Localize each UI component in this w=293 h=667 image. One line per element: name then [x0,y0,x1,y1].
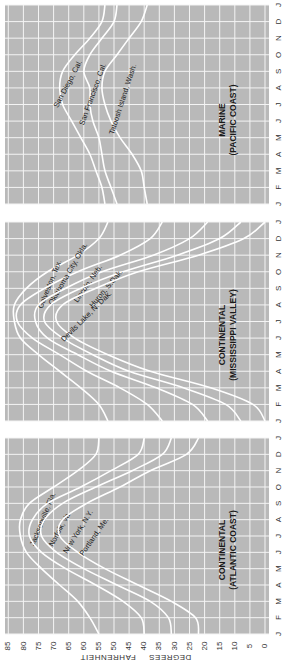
month-tick-label: F [274,615,283,620]
panel-subtitle: (ATLANTIC COAST) [228,510,238,590]
temperature-tick-label: 50 [109,641,118,650]
temperature-tick-label: 65 [64,641,73,650]
month-tick-label: A [274,582,283,588]
panel-0: JFMAMJJASONDJSan Diego, Cal.San Francisc… [5,3,283,206]
axis-label-fahrenheit: FAHRENHEIT [80,653,136,662]
temperature-tick-label: 85 [3,641,12,650]
month-tick-label: O [274,52,283,58]
month-tick-label: F [274,402,283,407]
temperature-tick-label: 10 [230,641,239,650]
month-tick-label: J [274,534,283,538]
month-tick-label: N [274,252,283,258]
month-tick-label: M [274,598,283,605]
month-tick-label: M [274,134,283,141]
temperature-axis: 8580757065605550454035302520151050DEGREE… [3,641,269,662]
panel-subtitle: (PACIFIC COAST) [228,84,238,155]
temperature-tick-label: 70 [49,641,58,650]
month-tick-label: J [274,632,283,636]
panel-2: JFMAMJJASONDJJacksonville, Fla.Norfolk, … [5,436,283,636]
month-tick-label: J [274,103,283,107]
month-tick-label: J [274,436,283,440]
month-tick-label: N [274,35,283,41]
temperature-tick-label: 80 [19,641,28,650]
month-tick-label: D [274,235,283,241]
month-tick-label: D [274,451,283,457]
temperature-tick-label: 15 [215,641,224,650]
panel-title: MARINE [217,103,227,137]
month-tick-label: O [274,484,283,490]
month-tick-label: M [274,384,283,391]
month-tick-label: D [274,18,283,24]
panel-1: JFMAMJJASONDJGalveston, Tex.Oklahoma Cit… [5,220,283,423]
month-tick-label: O [274,269,283,275]
month-tick-label: A [274,151,283,157]
month-tick-label: S [274,501,283,506]
temperature-tick-label: 35 [154,641,163,650]
month-tick-label: A [274,85,283,91]
month-tick-label: S [274,286,283,291]
temperature-tick-label: 40 [139,641,148,650]
month-tick-label: J [274,202,283,206]
panel-subtitle: (MISSISSIPPI VALLEY) [228,289,238,381]
temperature-tick-label: 30 [170,641,179,650]
temperature-tick-label: 0 [260,643,269,648]
month-tick-label: S [274,69,283,74]
temperature-tick-label: 45 [124,641,133,650]
temperature-tick-label: 60 [79,641,88,650]
temperature-tick-label: 75 [34,641,43,650]
month-tick-label: N [274,468,283,474]
month-tick-label: J [274,419,283,423]
month-tick-label: A [274,516,283,522]
temperature-tick-label: 5 [245,643,254,648]
month-tick-label: M [274,351,283,358]
month-tick-label: J [274,220,283,224]
month-tick-label: J [274,336,283,340]
temperature-tick-label: 20 [200,641,209,650]
month-tick-label: M [274,167,283,174]
month-tick-label: M [274,565,283,572]
month-tick-label: J [274,550,283,554]
temperature-tick-label: 55 [94,641,103,650]
month-tick-label: A [274,368,283,374]
month-tick-label: J [274,320,283,324]
climate-temperature-chart: JFMAMJJASONDJSan Diego, Cal.San Francisc… [0,0,293,667]
panel-title: CONTINENTAL [217,520,227,580]
temperature-tick-label: 25 [185,641,194,650]
month-tick-label: J [274,119,283,123]
axis-label-degrees: DEGREES [149,653,192,662]
month-tick-label: J [274,3,283,7]
panel-title: CONTINENTAL [217,305,227,365]
month-tick-label: A [274,302,283,308]
chart-panels: JFMAMJJASONDJSan Diego, Cal.San Francisc… [5,3,283,636]
month-tick-label: F [274,185,283,190]
